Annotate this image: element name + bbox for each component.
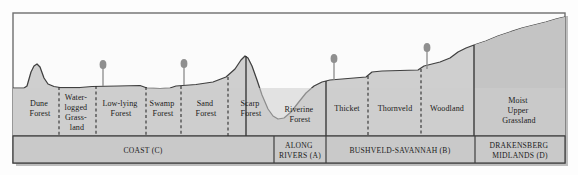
zone-label-thicket: Thicket [334,104,360,113]
zone-label-swamp-forest: Swamp Forest [150,99,177,118]
transect-profile-chart: Dune Forest Water- logged Grass- land Lo… [0,0,578,175]
vegetation-transect-diagram: Dune Forest Water- logged Grass- land Lo… [0,0,578,175]
region-label-drakensberg-midlands: DRAKENSBERG MIDLANDS (D) [489,141,550,160]
zone-label-woodland: Woodland [430,104,464,113]
zone-label-dune-forest: Dune Forest [30,99,51,118]
region-label-coast: COAST (C) [123,146,162,155]
region-label-bushveld-savannah: BUSHVELD-SAVANNAH (B) [350,146,451,155]
region-label-along-rivers: ALONG RIVERS (A) [279,141,321,160]
zone-label-scarp-forest: Scarp Forest [240,99,262,118]
zone-label-sand-forest: Sand Forest [196,99,217,118]
zone-label-thornveld: Thornveld [378,104,413,113]
